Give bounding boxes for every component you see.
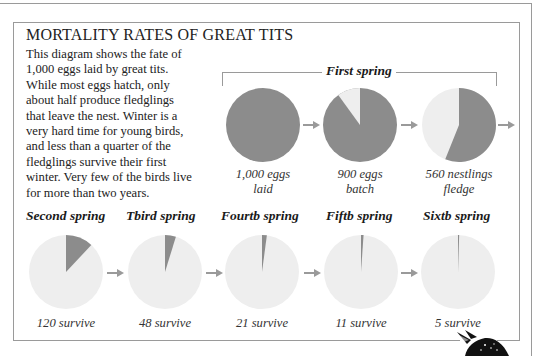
arrow-icon xyxy=(303,120,321,130)
arrow-icon xyxy=(206,268,224,278)
first-spring-bracket-left xyxy=(222,72,223,86)
first-spring-label: First spring xyxy=(322,63,396,79)
arrow-icon xyxy=(304,268,322,278)
caption-line: 900 eggs xyxy=(310,167,410,182)
caption-third-spring: 48 survive xyxy=(115,316,215,331)
fourth-spring-label: Fourtb spring xyxy=(217,208,303,224)
intro-paragraph: This diagram shows the fate of 1,000 egg… xyxy=(26,47,194,201)
pie-third-spring xyxy=(127,234,203,310)
third-spring-label: Tbird spring xyxy=(122,208,199,224)
arrow-icon xyxy=(401,268,419,278)
caption-second-spring: 120 survive xyxy=(16,316,116,331)
outer-frame-right xyxy=(531,3,532,356)
pie-fourth-spring xyxy=(224,234,300,310)
second-spring-label: Second spring xyxy=(22,208,109,224)
caption-line: 560 nestlings xyxy=(404,167,514,182)
arrow-icon xyxy=(401,120,419,130)
fifth-spring-label: Fiftb spring xyxy=(322,208,396,224)
caption-line: laid xyxy=(213,182,313,197)
inner-frame-top xyxy=(13,22,520,23)
pie-eggs-hatch xyxy=(322,87,398,163)
caption-eggs-laid: 1,000 eggs laid xyxy=(213,167,313,197)
caption-sixth-spring: 5 survive xyxy=(408,316,508,331)
great-tit-head-icon xyxy=(455,330,515,356)
caption-line: batch xyxy=(310,182,410,197)
first-spring-bracket-right xyxy=(496,72,497,86)
pie-eggs-laid xyxy=(225,87,301,163)
diagram-title: MORTALITY RATES OF GREAT TITS xyxy=(26,26,293,44)
caption-line: fledge xyxy=(404,182,514,197)
caption-fifth-spring: 11 survive xyxy=(311,316,411,331)
inner-frame-left xyxy=(13,22,14,341)
arrow-icon xyxy=(107,268,125,278)
pie-nestlings-fledge xyxy=(421,87,497,163)
inner-frame-right xyxy=(519,22,520,341)
pie-second-spring xyxy=(28,234,104,310)
outer-frame-top xyxy=(0,3,532,4)
caption-nestlings-fledge: 560 nestlings fledge xyxy=(404,167,514,197)
arrow-icon xyxy=(498,120,516,130)
caption-fourth-spring: 21 survive xyxy=(212,316,312,331)
caption-eggs-hatch: 900 eggs batch xyxy=(310,167,410,197)
caption-line: 1,000 eggs xyxy=(213,167,313,182)
sixth-spring-label: Sixtb spring xyxy=(419,208,494,224)
pie-fifth-spring xyxy=(323,234,399,310)
inner-frame-bottom xyxy=(13,340,460,341)
pie-sixth-spring xyxy=(420,234,496,310)
